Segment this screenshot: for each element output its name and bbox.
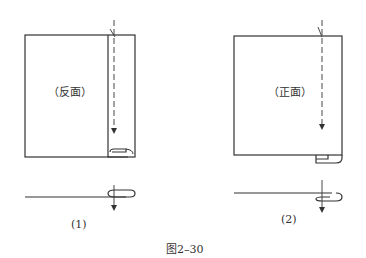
figure-caption: 图2–30	[166, 240, 204, 256]
panel-1-side-label: （反面）	[48, 83, 92, 99]
panel-1-label: (1)	[71, 218, 87, 231]
panel-2-label: (2)	[281, 213, 297, 226]
fold-diagram	[0, 0, 366, 258]
panel-2-side-label: （正面）	[268, 83, 312, 99]
panel-2-section	[234, 180, 342, 213]
panel-1-section	[25, 185, 135, 211]
